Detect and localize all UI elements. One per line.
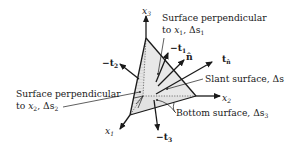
neg-t2-arrow: [120, 64, 139, 79]
diagram-svg: x3 x2 x1 −t2 −t1 n̂ tn̂ −t3 Surface perp…: [0, 0, 302, 145]
n-hat-label: n̂: [186, 51, 193, 62]
leader-dot: [139, 91, 141, 93]
neg-t1-label: −t1: [170, 42, 186, 54]
callout-surface-x2-line1: Surface perpendicular: [16, 88, 121, 99]
neg-t3-label: −t3: [156, 131, 172, 143]
neg-t2-label: −t2: [102, 57, 118, 69]
x1-axis-arrow: [120, 115, 130, 129]
callout-slant: Slant surface, Δs: [205, 73, 284, 84]
x2-label: x2: [222, 92, 231, 104]
tetrahedron-diagram: x3 x2 x1 −t2 −t1 n̂ tn̂ −t3 Surface perp…: [0, 0, 302, 145]
t-n-label: tn̂: [222, 53, 231, 65]
callout-surface-x1-line1: Surface perpendicular: [162, 12, 267, 23]
leader-dot: [166, 88, 168, 90]
callout-bottom: Bottom surface, Δs3: [176, 107, 269, 119]
x1-label: x1: [105, 125, 114, 137]
callout-surface-x1-line2: to x1, Δs1: [162, 24, 204, 36]
callout-surface-x2-line2: to x2, Δs2: [16, 100, 58, 112]
leader-dot: [157, 73, 159, 75]
x3-label: x3: [142, 5, 151, 17]
